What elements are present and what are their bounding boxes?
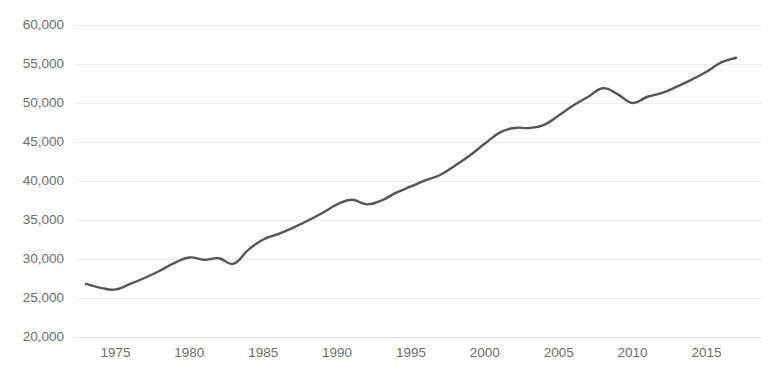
y-tick-label: 35,000 [23, 212, 64, 227]
y-tick-label: 30,000 [23, 251, 64, 266]
x-tick-label: 1990 [322, 345, 352, 360]
y-tick-label: 40,000 [23, 173, 64, 188]
x-tick-label: 1975 [100, 345, 130, 360]
line-chart-figure: 20,00025,00030,00035,00040,00045,00050,0… [0, 0, 771, 384]
y-axis-tick-labels: 20,00025,00030,00035,00040,00045,00050,0… [23, 17, 64, 344]
data-line-series-1 [86, 58, 736, 290]
y-tick-label: 55,000 [23, 56, 64, 71]
x-tick-label: 2015 [691, 345, 721, 360]
x-tick-label: 2000 [470, 345, 500, 360]
x-tick-label: 2005 [544, 345, 574, 360]
y-tick-label: 60,000 [23, 17, 64, 32]
y-tick-label: 50,000 [23, 95, 64, 110]
chart-canvas: 20,00025,00030,00035,00040,00045,00050,0… [0, 0, 771, 384]
x-tick-label: 1980 [174, 345, 204, 360]
x-tick-label: 1985 [248, 345, 278, 360]
y-tick-label: 45,000 [23, 134, 64, 149]
y-tick-label: 25,000 [23, 290, 64, 305]
x-tick-label: 2010 [618, 345, 648, 360]
gridlines-group [75, 25, 762, 337]
x-tick-label: 1995 [396, 345, 426, 360]
x-axis-tick-labels: 197519801985199019952000200520102015 [100, 345, 721, 360]
y-tick-label: 20,000 [23, 329, 64, 344]
